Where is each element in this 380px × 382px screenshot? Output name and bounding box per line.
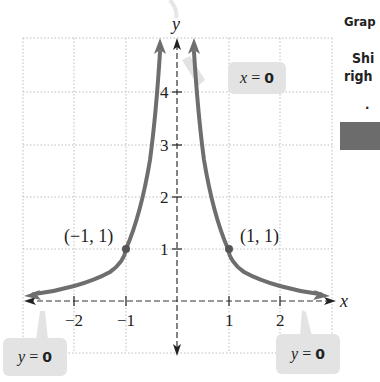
x-axis-label: x: [339, 291, 348, 311]
callout-vertical-asymptote: x = 0: [228, 62, 286, 94]
point-label-right: (1, 1): [240, 226, 279, 247]
tick-x-minus1: −1: [117, 311, 135, 330]
callout-pointer-left: [36, 311, 48, 340]
callout-eq: =: [247, 69, 264, 87]
tick-y-2: 2: [160, 188, 169, 207]
tick-x-minus2: −2: [65, 311, 83, 330]
callout-val: 0: [42, 349, 52, 365]
tick-y-4: 4: [160, 83, 169, 102]
callout-pointer-right: [300, 310, 312, 336]
callout-var: x: [240, 69, 247, 87]
side-text-line1: Grap: [344, 14, 376, 29]
y-axis-label: y: [170, 14, 180, 34]
side-text-line4: ·: [365, 100, 369, 115]
callout-val: 0: [315, 346, 325, 362]
point-minus1-1: [122, 245, 130, 253]
callout-eq: =: [298, 345, 315, 363]
point-label-left: (−1, 1): [64, 226, 113, 247]
tick-y-3: 3: [160, 136, 169, 155]
callout-var: y: [18, 348, 25, 366]
callout-horizontal-asymptote-left: y = 0: [3, 338, 67, 376]
tick-x-2: 2: [276, 311, 285, 330]
side-gray-box: [340, 122, 380, 150]
point-1-1: [225, 245, 233, 253]
side-text-line3: righ: [344, 68, 373, 84]
callout-var: y: [291, 345, 298, 363]
callout-horizontal-asymptote-right: y = 0: [276, 334, 340, 374]
tick-y-1: 1: [160, 240, 169, 259]
curve-left-branch: [33, 52, 160, 294]
tick-x-1: 1: [225, 311, 234, 330]
side-text-line2: Shi: [352, 50, 374, 66]
callout-val: 0: [264, 70, 274, 86]
callout-eq: =: [25, 348, 42, 366]
